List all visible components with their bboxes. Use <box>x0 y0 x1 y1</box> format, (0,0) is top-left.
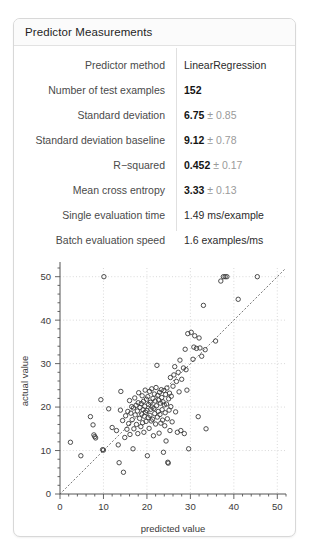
table-row: R−squared 0.452 ± 0.17 <box>14 152 295 177</box>
predictor-measurements-card: Predictor Measurements Predictor method … <box>13 18 296 537</box>
row-value-main: 9.12 <box>184 134 204 146</box>
metrics-table: Predictor method LinearRegression Number… <box>14 46 295 252</box>
row-value: 3.33 ± 0.13 <box>174 184 295 196</box>
row-label: Standard deviation <box>14 109 174 121</box>
row-value: 1.49 ms/example <box>174 209 295 221</box>
x-tick-label: 0 <box>57 501 62 512</box>
column-divider <box>176 48 177 231</box>
table-row: Predictor method LinearRegression <box>14 52 295 77</box>
x-tick-label: 50 <box>272 501 283 512</box>
row-value-uncertainty: ± 0.78 <box>207 134 236 146</box>
row-value-main: 6.75 <box>184 109 204 121</box>
row-value: 9.12 ± 0.78 <box>174 134 295 146</box>
row-value-main: LinearRegression <box>184 59 266 71</box>
x-tick-label: 40 <box>229 501 240 512</box>
table-row: Single evaluation time 1.49 ms/example <box>14 202 295 227</box>
x-tick-label: 30 <box>185 501 196 512</box>
row-value: 152 <box>174 84 295 96</box>
row-label: Number of test examples <box>14 84 174 96</box>
table-row: Standard deviation 6.75 ± 0.85 <box>14 102 295 127</box>
row-value: 1.6 examples/ms <box>174 234 295 246</box>
row-value: 6.75 ± 0.85 <box>174 109 295 121</box>
row-label: R−squared <box>14 159 174 171</box>
table-row: Batch evaluation speed 1.6 examples/ms <box>14 227 295 252</box>
y-tick-label: 0 <box>46 488 51 499</box>
scatter-plot-svg: 0102030405001020304050 predicted value a… <box>14 254 295 537</box>
row-value-uncertainty: ± 0.13 <box>207 184 236 196</box>
data-points <box>68 274 259 474</box>
row-value: 0.452 ± 0.17 <box>174 159 295 171</box>
table-row: Mean cross entropy 3.33 ± 0.13 <box>14 177 295 202</box>
row-value: LinearRegression <box>174 59 295 71</box>
axis-lines <box>60 262 286 494</box>
card-header: Predictor Measurements <box>14 19 295 46</box>
row-label: Batch evaluation speed <box>14 234 174 246</box>
x-tick-label: 10 <box>98 501 109 512</box>
x-axis-label: predicted value <box>141 523 205 534</box>
y-tick-label: 20 <box>40 401 51 412</box>
y-tick-label: 50 <box>40 271 51 282</box>
y-tick-label: 10 <box>40 445 51 456</box>
row-value-main: 1.6 examples/ms <box>184 234 263 246</box>
table-row: Standard deviation baseline 9.12 ± 0.78 <box>14 127 295 152</box>
row-value-main: 3.33 <box>184 184 204 196</box>
y-tick-label: 40 <box>40 315 51 326</box>
y-axis-label: actual value <box>19 356 30 407</box>
x-tick-label: 20 <box>142 501 153 512</box>
row-value-uncertainty: ± 0.17 <box>213 159 242 171</box>
row-value-uncertainty: ± 0.85 <box>207 109 236 121</box>
table-row: Number of test examples 152 <box>14 77 295 102</box>
row-value-main: 152 <box>184 84 202 96</box>
row-label: Standard deviation baseline <box>14 134 174 146</box>
page-title: Predictor Measurements <box>25 26 152 38</box>
identity-reference-line <box>60 268 286 494</box>
row-label: Single evaluation time <box>14 209 174 221</box>
scatter-plot: 0102030405001020304050 predicted value a… <box>14 254 295 537</box>
row-label: Mean cross entropy <box>14 184 174 196</box>
row-value-main: 0.452 <box>184 159 210 171</box>
y-tick-label: 30 <box>40 358 51 369</box>
row-value-main: 1.49 ms/example <box>184 209 264 221</box>
row-label: Predictor method <box>14 59 174 71</box>
